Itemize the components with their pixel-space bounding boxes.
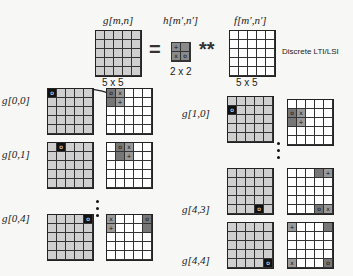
grid-cell [66, 224, 75, 233]
grid-cell: o [288, 109, 297, 118]
grid-cell [264, 115, 273, 124]
grid-cell [255, 241, 264, 250]
convolution-operator: ** [199, 38, 215, 61]
output-grid-example: o [47, 214, 94, 261]
grid-cell [143, 224, 152, 233]
output-grid-g [95, 30, 142, 77]
grid-cell: + [288, 223, 297, 232]
grid-cell [266, 67, 275, 76]
grid-cell [264, 124, 273, 133]
grid-cell [246, 115, 255, 124]
grid-cell [75, 233, 84, 242]
grid-cell [107, 98, 116, 107]
grid-cell [315, 136, 324, 145]
grid-cell [297, 100, 306, 109]
grid-cell [324, 100, 333, 109]
grid-cell [297, 187, 306, 196]
grid-cell: o [315, 205, 324, 214]
grid-cell [324, 118, 333, 127]
grid-cell [96, 31, 105, 40]
output-grid-example: o [47, 88, 94, 135]
grid-cell [123, 67, 132, 76]
grid-cell [114, 31, 123, 40]
grid-cell [125, 116, 134, 125]
grid-cell [75, 215, 84, 224]
grid-cell [248, 67, 257, 76]
grid-cell [315, 118, 324, 127]
grid-cell [75, 251, 84, 260]
grid-cell [246, 250, 255, 259]
grid-cell [257, 67, 266, 76]
grid-cell [123, 58, 132, 67]
example-label: g[0,4] [2, 212, 30, 224]
grid-cell [57, 170, 66, 179]
grid-cell [84, 233, 93, 242]
grid-cell [315, 250, 324, 259]
grid-cell [134, 89, 143, 98]
grid-cell [257, 58, 266, 67]
grid-cell [266, 49, 275, 58]
grid-cell [105, 40, 114, 49]
grid-cell [123, 31, 132, 40]
grid-cell [143, 125, 152, 134]
grid-cell [143, 89, 152, 98]
grid-cell [66, 170, 75, 179]
grid-cell [132, 40, 141, 49]
grid-cell [84, 89, 93, 98]
grid-cell [324, 196, 333, 205]
grid-cell [107, 125, 116, 134]
grid-cell [84, 170, 93, 179]
grid-cell [123, 40, 132, 49]
grid-cell [315, 178, 324, 187]
grid-cell [48, 170, 57, 179]
grid-cell [228, 250, 237, 259]
grid-cell [84, 143, 93, 152]
grid-cell [134, 161, 143, 170]
grid-cell [237, 205, 246, 214]
grid-cell [66, 107, 75, 116]
grid-cell [57, 125, 66, 134]
grid-cell [228, 241, 237, 250]
grid-cell [306, 196, 315, 205]
grid-cell [239, 58, 248, 67]
grid-cell [116, 242, 125, 251]
grid-cell [134, 233, 143, 242]
grid-cell: x [324, 205, 333, 214]
output-grid-example: o [227, 222, 274, 269]
grid-cell [228, 97, 237, 106]
grid-cell [107, 116, 116, 125]
grid-cell [257, 31, 266, 40]
grid-cell [306, 250, 315, 259]
grid-cell [125, 179, 134, 188]
grid-cell [48, 242, 57, 251]
grid-cell [255, 97, 264, 106]
grid-cell [255, 169, 264, 178]
grid-cell [297, 259, 306, 268]
grid-cell [315, 100, 324, 109]
grid-cell [66, 152, 75, 161]
grid-cell [324, 178, 333, 187]
grid-cell [288, 127, 297, 136]
grid-cell [48, 116, 57, 125]
grid-cell [132, 67, 141, 76]
grid-cell [75, 242, 84, 251]
grid-cell [228, 232, 237, 241]
grid-cell [288, 241, 297, 250]
input-grid-example: ox+ [106, 88, 153, 135]
grid-cell [48, 233, 57, 242]
grid-cell [288, 100, 297, 109]
kernel-cell [181, 43, 190, 52]
grid-cell [264, 133, 273, 142]
grid-cell [239, 31, 248, 40]
grid-cell [264, 232, 273, 241]
grid-cell [143, 107, 152, 116]
grid-cell [297, 127, 306, 136]
grid-cell [288, 136, 297, 145]
grid-cell [75, 125, 84, 134]
grid-cell [84, 107, 93, 116]
grid-cell [125, 251, 134, 260]
grid-cell [255, 106, 264, 115]
grid-cell [324, 241, 333, 250]
grid-cell [237, 250, 246, 259]
grid-cell [48, 224, 57, 233]
